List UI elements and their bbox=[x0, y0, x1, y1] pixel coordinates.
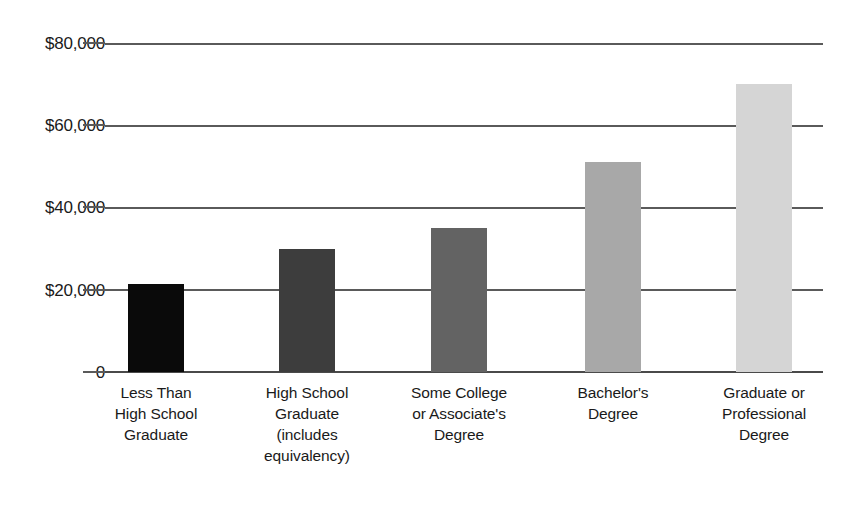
x-label-line: Degree bbox=[366, 424, 552, 445]
plot-area bbox=[105, 43, 823, 372]
x-label-line: Professional bbox=[671, 403, 850, 424]
y-tick-mark bbox=[83, 206, 105, 208]
y-tick-mark bbox=[83, 371, 105, 373]
x-tick-label-graduate-or-professional-degree: Graduate or Professional Degree bbox=[671, 382, 850, 445]
bar-graduate-or-professional-degree[interactable] bbox=[736, 84, 792, 372]
y-tick-mark bbox=[83, 124, 105, 126]
x-label-line: Graduate or bbox=[671, 382, 850, 403]
y-tick-mark bbox=[83, 289, 105, 291]
bars-layer bbox=[105, 43, 823, 372]
x-label-line: Degree bbox=[671, 424, 850, 445]
bar-less-than-high-school-graduate[interactable] bbox=[128, 284, 184, 372]
y-tick-mark bbox=[83, 42, 105, 44]
x-label-line: equivalency) bbox=[214, 445, 400, 466]
bar-high-school-graduate[interactable] bbox=[279, 249, 335, 372]
bar-chart: $80,000 $60,000 $40,000 $20,000 0 Le bbox=[0, 0, 850, 508]
bar-some-college-or-associates-degree[interactable] bbox=[431, 228, 487, 372]
x-axis: Less Than High School Graduate High Scho… bbox=[105, 382, 823, 502]
bar-bachelors-degree[interactable] bbox=[585, 162, 641, 372]
